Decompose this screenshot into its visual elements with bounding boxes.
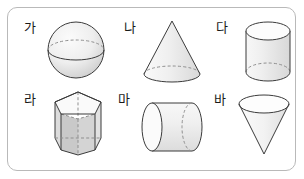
figure-label-ga: 가 bbox=[24, 21, 36, 34]
figure-cell-cylinder-vertical[interactable]: 다 bbox=[212, 16, 294, 86]
figure-label-na: 나 bbox=[124, 21, 136, 34]
cone-inverted-shape bbox=[236, 94, 292, 158]
figure-cell-sphere[interactable]: 가 bbox=[22, 16, 110, 86]
figure-cell-pentagonal-prism[interactable]: 라 bbox=[22, 88, 110, 164]
sphere-shape bbox=[44, 18, 108, 82]
figure-label-da: 다 bbox=[216, 21, 228, 34]
figure-cell-cone-inverted[interactable]: 바 bbox=[208, 88, 294, 164]
figure-cell-cone[interactable]: 나 bbox=[116, 16, 208, 86]
cone-shape bbox=[138, 18, 206, 84]
cylinder-horizontal-shape bbox=[140, 99, 204, 155]
figure-cell-cylinder-horizontal[interactable]: 마 bbox=[112, 88, 208, 164]
solid-figures-panel: 가 나 bbox=[7, 7, 296, 171]
figure-label-ra: 라 bbox=[24, 93, 36, 106]
figure-label-ma: 마 bbox=[118, 93, 130, 106]
cylinder-vertical-shape bbox=[242, 20, 294, 84]
figure-label-ba: 바 bbox=[214, 93, 226, 106]
pentagonal-prism-shape bbox=[50, 89, 106, 159]
